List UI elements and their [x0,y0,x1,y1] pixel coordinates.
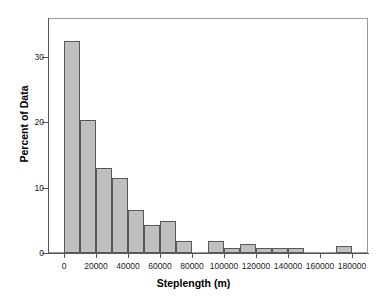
histogram-bar [128,210,144,253]
histogram-bar [160,221,176,253]
y-axis-title: Percent of Data [18,49,30,199]
histogram-bar [80,120,96,253]
y-axis-tick-label: 0 [4,249,44,257]
histogram-bar [96,168,112,253]
x-axis-tick [160,253,161,258]
histogram-bar [64,41,80,253]
x-axis-tick [96,253,97,258]
x-axis-tick [288,253,289,258]
x-axis-title: Steplength (m) [0,277,387,289]
histogram-bar [112,178,128,253]
histogram-bar [176,241,192,253]
x-axis-tick-label: 180000 [327,262,377,271]
x-axis-tick [128,253,129,258]
histogram-bar [208,241,224,253]
histogram-bar [144,225,160,253]
x-axis-tick [64,253,65,258]
x-axis-tick [256,253,257,258]
x-axis-tick [224,253,225,258]
bars-layer [48,18,368,253]
histogram-chart: 0102030 02000040000600008000010000012000… [0,0,387,299]
histogram-bar [240,244,256,253]
x-axis-tick [352,253,353,258]
y-axis-line [48,18,49,254]
x-axis-tick [320,253,321,258]
x-axis-tick [192,253,193,258]
